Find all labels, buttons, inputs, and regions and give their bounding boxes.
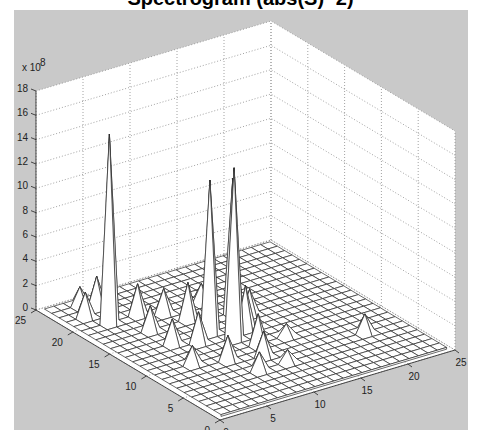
x-tick-label: 5 — [270, 413, 276, 424]
z-tick-label: 2 — [22, 278, 28, 289]
x-tick-label: 15 — [361, 385, 373, 396]
z-multiplier-label: x 10 — [22, 62, 41, 73]
x-tick-label: 25 — [455, 357, 467, 368]
x-tick-label: 20 — [408, 371, 420, 382]
y-tick-label: 20 — [52, 337, 64, 348]
y-tick-label: 10 — [125, 381, 137, 392]
z-tick-label: 8 — [22, 205, 28, 216]
surface-plot: 02468101214161805101520250510152025x 108 — [14, 10, 468, 430]
z-multiplier-exponent: 8 — [40, 57, 46, 68]
z-tick-label: 14 — [17, 132, 29, 143]
chart-title: Spectrogram (abs(S)^2) — [0, 0, 481, 10]
z-tick-label: 18 — [17, 83, 29, 94]
y-tick-label: 15 — [88, 359, 100, 370]
z-tick-label: 12 — [17, 156, 29, 167]
x-tick-label: 0 — [223, 427, 229, 430]
z-tick-label: 16 — [17, 107, 29, 118]
figure-area: 02468101214161805101520250510152025x 108 — [14, 10, 468, 430]
y-tick-label: 0 — [204, 425, 210, 430]
z-tick-label: 4 — [22, 253, 28, 264]
y-tick-label: 25 — [15, 315, 27, 326]
z-tick-label: 10 — [17, 180, 29, 191]
y-tick-label: 5 — [168, 403, 174, 414]
z-tick-label: 6 — [22, 229, 28, 240]
x-tick-label: 10 — [314, 399, 326, 410]
z-tick-label: 0 — [22, 302, 28, 313]
